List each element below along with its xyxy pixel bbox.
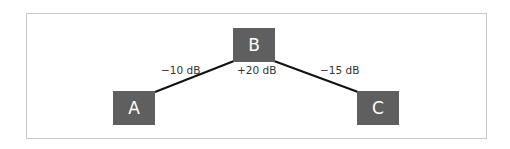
- node-b-gain-label: +20 dB: [237, 64, 276, 76]
- node-c-label: C: [372, 98, 384, 118]
- node-b: B: [233, 28, 275, 62]
- node-a-label: A: [128, 98, 140, 118]
- node-b-label: B: [248, 35, 260, 55]
- edge-b-c-label: −15 dB: [320, 64, 359, 76]
- node-a: A: [113, 91, 155, 125]
- edge-a-b-label: −10 dB: [161, 64, 200, 76]
- node-c: C: [357, 91, 399, 125]
